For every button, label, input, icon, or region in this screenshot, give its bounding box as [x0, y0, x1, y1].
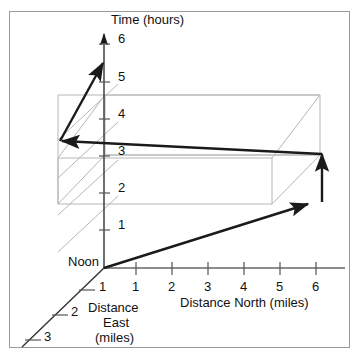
east-axis-title-line1: Distance [88, 301, 139, 314]
box-wireframe [58, 84, 320, 252]
box-edge-top-right [272, 95, 320, 158]
box-edge-bottom-left [58, 155, 105, 204]
time-tick-label-1: 1 [118, 218, 125, 231]
north-tick-label-5: 5 [276, 280, 283, 293]
time-axis-title: Time (hours) [111, 13, 184, 26]
north-axis-title: Distance North (miles) [180, 296, 309, 309]
east-axis-title-line3: (miles) [95, 331, 134, 344]
east-tick-label-1: 1 [99, 280, 106, 293]
box-front-face [58, 158, 272, 204]
time-tick-label-5: 5 [118, 70, 125, 83]
east-axis-ticks [25, 290, 95, 340]
north-tick-label-4: 4 [240, 280, 247, 293]
east-guide-line-t1 [58, 160, 118, 215]
north-tick-label-6: 6 [312, 280, 319, 293]
north-tick-label-2: 2 [168, 280, 175, 293]
upward-spacetime-vector [60, 63, 103, 141]
time-tick-label-2: 2 [118, 181, 125, 194]
east-axis-title-line2: East [103, 316, 129, 329]
time-tick-label-6: 6 [118, 32, 125, 45]
east-tick-label-3: 3 [44, 330, 51, 343]
time-tick-label-3: 3 [118, 144, 125, 157]
north-travel-vector [104, 204, 308, 268]
box-edge-bottom-right [272, 155, 320, 204]
east-tick-label-2: 2 [71, 305, 78, 318]
figure-root: Time (hours) 6 5 4 3 2 1 Noon 1 2 3 4 5 … [0, 0, 364, 364]
time-tick-label-4: 4 [118, 107, 125, 120]
north-tick-label-1: 1 [132, 280, 139, 293]
box-back-face [105, 95, 320, 155]
north-tick-label-3: 3 [204, 280, 211, 293]
journey-vectors [60, 63, 322, 268]
noon-origin-label: Noon [68, 255, 99, 268]
